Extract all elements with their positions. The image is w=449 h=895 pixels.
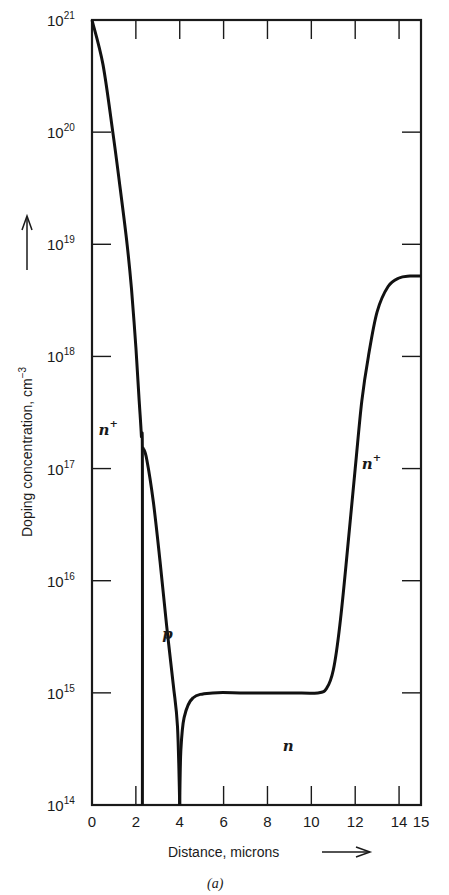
x-tick-label: 8 (263, 813, 271, 830)
x-tick-labels: 0246810121415 (88, 813, 430, 830)
x-tick-label: 2 (132, 813, 140, 830)
x-tick-label: 4 (176, 813, 184, 830)
x-axis-arrow-icon (322, 847, 370, 857)
y-tick-label: 1014 (47, 795, 75, 814)
x-tick-label: 14 (391, 813, 408, 830)
y-tick-label: 1018 (47, 346, 75, 365)
x-tick-label: 12 (347, 813, 364, 830)
x-axis-title: Distance, microns (168, 844, 279, 860)
doping-curve (142, 448, 179, 805)
x-tick-label: 6 (219, 813, 227, 830)
y-tick-label: 1017 (47, 459, 75, 478)
x-tick-label: 15 (413, 813, 430, 830)
x-tick-label: 10 (303, 813, 320, 830)
y-axis-arrow-icon (22, 216, 32, 270)
x-tick-label: 0 (88, 813, 96, 830)
y-tick-label: 1016 (47, 571, 75, 590)
region-label: n+ (362, 452, 381, 473)
doping-profile-chart: 10141015101610171018101910201021 0246810… (0, 0, 449, 895)
y-tick-label: 1021 (47, 10, 75, 29)
y-tick-label: 1015 (47, 683, 75, 702)
doping-curve (180, 276, 421, 805)
region-label: n (283, 737, 294, 755)
doping-curves (92, 20, 421, 805)
y-axis-title: Doping concentration, cm−3 (17, 366, 35, 537)
figure-caption: (a) (207, 876, 224, 892)
region-label: p (162, 625, 173, 643)
doping-curve (92, 20, 142, 805)
y-tick-labels: 10141015101610171018101910201021 (47, 10, 75, 814)
y-tick-label: 1019 (47, 234, 75, 253)
y-tick-label: 1020 (47, 122, 75, 141)
region-label: n+ (99, 418, 118, 439)
